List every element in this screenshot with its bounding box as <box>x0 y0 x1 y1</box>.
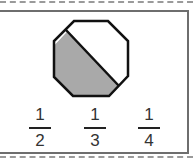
numerator: 1 <box>80 106 110 123</box>
denominator: 4 <box>134 132 164 149</box>
bottom-dashed-divider <box>0 156 193 158</box>
octagon-figure <box>52 19 130 98</box>
fraction-choice-2[interactable]: 1 3 <box>80 106 110 149</box>
numerator: 1 <box>134 106 164 123</box>
numerator: 1 <box>25 106 55 123</box>
fraction-bar <box>29 127 51 129</box>
top-dashed-divider <box>0 1 193 3</box>
fraction-bar <box>138 127 160 129</box>
fraction-choice-1[interactable]: 1 2 <box>25 106 55 149</box>
fraction-bar <box>84 127 106 129</box>
fraction-choice-3[interactable]: 1 4 <box>134 106 164 149</box>
denominator: 2 <box>25 132 55 149</box>
denominator: 3 <box>80 132 110 149</box>
